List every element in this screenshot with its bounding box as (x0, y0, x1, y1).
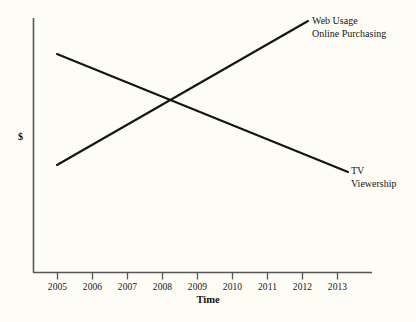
x-tick-label-2011: 2011 (248, 283, 288, 293)
x-axis-ticks (58, 273, 338, 280)
series-label-web-usage-line2: Online Purchasing (312, 28, 386, 41)
y-axis-title: $ (18, 132, 23, 142)
series-label-tv-viewership-line2: Viewership (351, 178, 397, 191)
x-tick-label-2007: 2007 (108, 283, 148, 293)
line-chart: $ Time 2005 2006 2007 2008 2009 2010 201… (0, 0, 416, 322)
series-label-tv-viewership: TV Viewership (351, 165, 397, 190)
x-tick-label-2013: 2013 (318, 283, 358, 293)
chart-plot-area (0, 0, 416, 322)
series-label-web-usage-line1: Web Usage (312, 15, 386, 28)
series-line-web-usage (57, 21, 308, 165)
x-axis-title: Time (0, 295, 416, 306)
x-tick-label-2006: 2006 (73, 283, 113, 293)
x-tick-label-2010: 2010 (213, 283, 253, 293)
x-tick-label-2012: 2012 (283, 283, 323, 293)
series-line-tv-viewership (57, 54, 348, 172)
x-tick-label-2009: 2009 (178, 283, 218, 293)
x-tick-label-2008: 2008 (143, 283, 183, 293)
x-tick-label-2005: 2005 (38, 283, 78, 293)
series-label-web-usage: Web Usage Online Purchasing (312, 15, 386, 40)
series-label-tv-viewership-line1: TV (351, 165, 397, 178)
